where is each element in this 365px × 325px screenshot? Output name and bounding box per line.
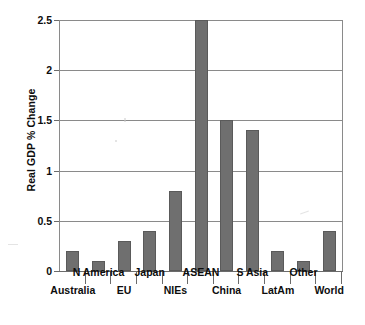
y-axis-tick-label: 1 xyxy=(12,166,52,177)
y-axis-tick-mark xyxy=(54,70,59,71)
plot-area xyxy=(59,20,343,272)
scan-speck xyxy=(8,244,18,245)
bar xyxy=(220,120,233,271)
y-axis-tick-mark xyxy=(54,221,59,222)
y-axis-tick-label: 2.5 xyxy=(12,15,52,26)
bar xyxy=(169,191,182,271)
bar xyxy=(143,231,156,271)
y-axis-tick-mark xyxy=(54,20,59,21)
bar xyxy=(195,20,208,271)
scan-speck xyxy=(115,140,117,142)
bar xyxy=(246,130,259,271)
x-axis-tick-label: World xyxy=(289,285,365,296)
bar xyxy=(323,231,336,271)
y-axis-tick-mark xyxy=(54,120,59,121)
bar-series xyxy=(60,20,343,271)
y-axis-tick-label: 0.5 xyxy=(12,216,52,227)
y-axis-tick-label: 0 xyxy=(12,266,52,277)
y-axis-tick-label: 1.5 xyxy=(12,115,52,126)
y-axis-tick-mark xyxy=(54,171,59,172)
x-axis-tick-label: Other xyxy=(264,267,344,278)
gdp-bar-chart: Real GDP % Change 00.511.522.5 Australia… xyxy=(0,0,365,325)
scan-speck xyxy=(124,118,126,122)
y-axis-tick-label: 2 xyxy=(12,65,52,76)
y-axis-tick-labels: 00.511.522.5 xyxy=(8,20,52,272)
